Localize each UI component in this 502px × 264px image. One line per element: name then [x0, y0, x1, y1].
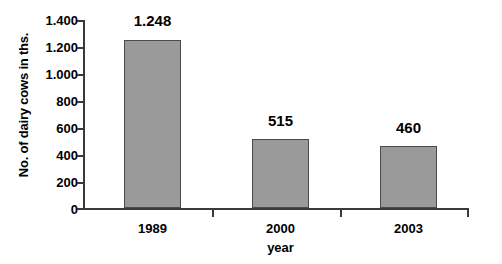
x-axis-line	[83, 208, 469, 210]
x-axis-tick	[340, 210, 342, 217]
x-axis-category-label-1989: 1989	[114, 222, 191, 235]
y-tick-label: 600	[32, 122, 78, 135]
y-axis-tick-labels: 1.400 1.200 1.000 800 600 400 200 0	[30, 0, 78, 264]
bar-value-label-1989: 1.248	[114, 13, 191, 28]
x-axis-category-label-2003: 2003	[370, 222, 447, 235]
bar-2003	[380, 146, 437, 208]
y-tick-label: 200	[32, 176, 78, 189]
y-tick-label: 400	[32, 149, 78, 162]
y-tick-label: 1.400	[32, 14, 78, 27]
bar-2000	[252, 139, 309, 208]
x-axis-tick	[467, 210, 469, 217]
bar-value-label-2003: 460	[370, 120, 447, 135]
x-axis-category-label-2000: 2000	[242, 222, 319, 235]
x-axis-title: year	[242, 241, 319, 254]
bar-1989	[124, 40, 181, 208]
y-tick-label: 1.200	[32, 41, 78, 54]
bar-value-label-2000: 515	[242, 113, 319, 128]
y-tick-label: 800	[32, 95, 78, 108]
y-axis-line	[83, 20, 85, 210]
x-axis-tick	[212, 210, 214, 217]
y-tick-label: 1.000	[32, 68, 78, 81]
bar-chart: No. of dairy cows in ths. 1.400 1.200 1.…	[0, 0, 502, 264]
y-tick-label: 0	[32, 203, 78, 216]
